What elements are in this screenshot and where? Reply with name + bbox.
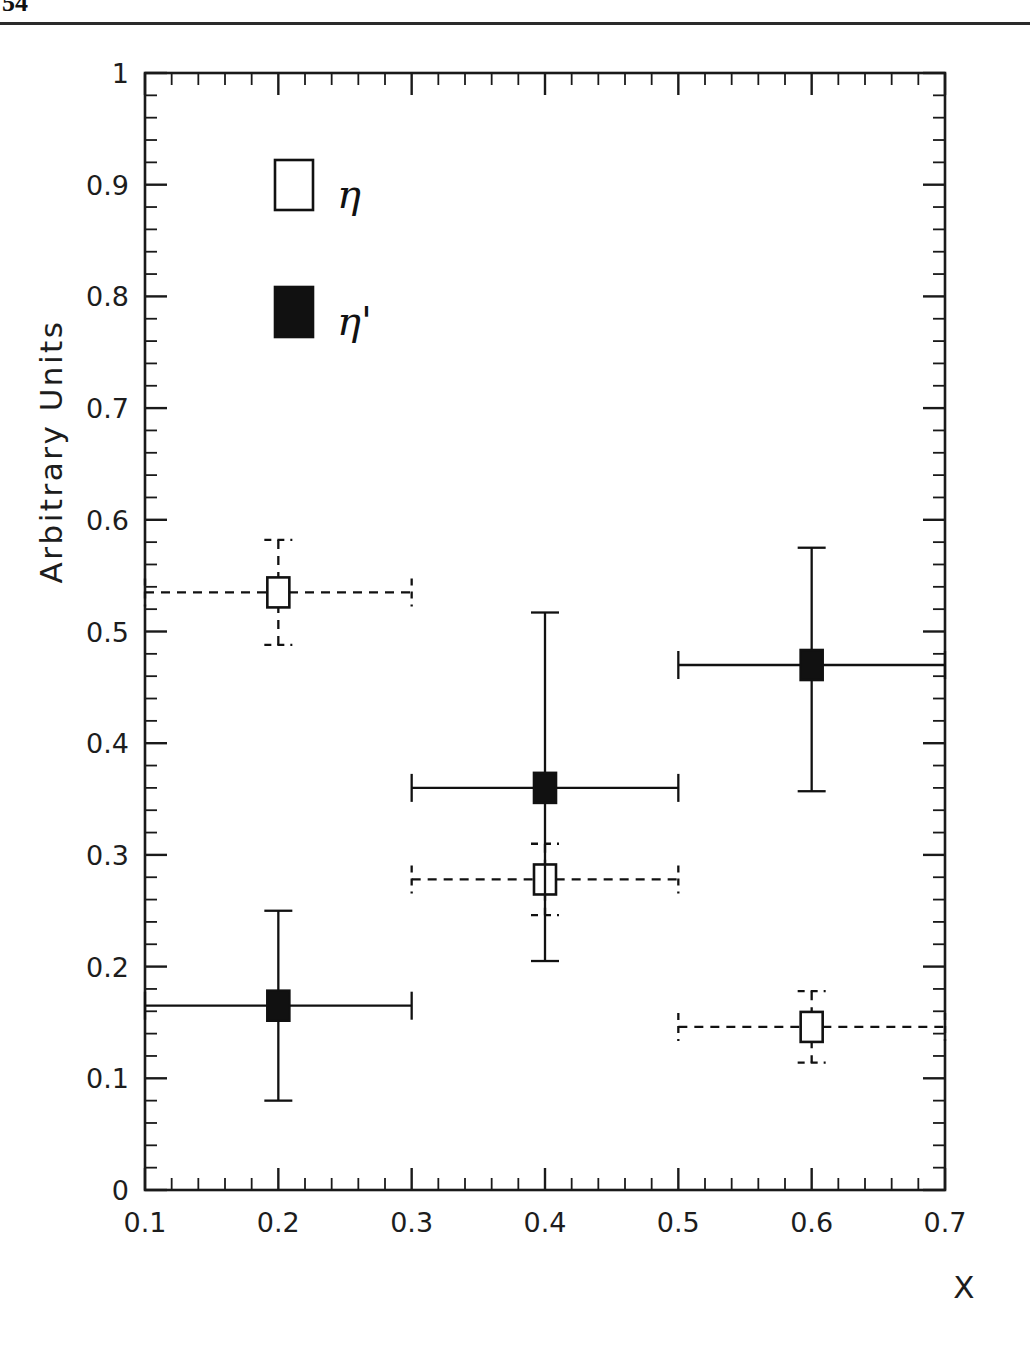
x-tick-label: 0.7 [924, 1207, 967, 1238]
y-tick-label: 0 [112, 1175, 129, 1206]
x-tick-label: 0.1 [124, 1207, 167, 1238]
marker-open-square [267, 577, 289, 607]
y-tick-label: 1 [112, 58, 129, 89]
y-tick-label: 0.2 [86, 952, 129, 983]
plot-legend: ηη' [275, 160, 372, 344]
legend-label: η' [337, 298, 372, 344]
data-point[interactable] [145, 911, 412, 1101]
y-tick-label: 0.9 [86, 170, 129, 201]
legend-marker-filled-square [275, 287, 313, 337]
x-tick-label: 0.6 [790, 1207, 833, 1238]
x-axis-title: X [953, 1269, 977, 1305]
y-axis-title: Arbitrary Units [33, 320, 69, 584]
legend-marker-open-square [275, 160, 313, 210]
legend-label: η [337, 171, 361, 217]
x-tick-label: 0.5 [657, 1207, 700, 1238]
legend-item-eta[interactable]: η [275, 160, 361, 217]
data-point[interactable] [412, 613, 679, 962]
x-tick-label: 0.2 [257, 1207, 300, 1238]
legend-item-eta-prime[interactable]: η' [275, 287, 372, 344]
data-point[interactable] [678, 548, 945, 792]
axis-titles: Arbitrary UnitsX [33, 320, 977, 1305]
y-axis-tick-labels: 00.10.20.30.40.50.60.70.80.91 [86, 58, 129, 1206]
y-tick-label: 0.3 [86, 840, 129, 871]
marker-filled-square [801, 650, 823, 680]
y-tick-label: 0.1 [86, 1063, 129, 1094]
y-tick-label: 0.5 [86, 617, 129, 648]
data-series-layer [145, 540, 945, 1101]
x-tick-label: 0.4 [524, 1207, 567, 1238]
marker-filled-square [534, 773, 556, 803]
y-tick-label: 0.6 [86, 505, 129, 536]
figure-scatter-plot: 0.10.20.30.40.50.60.7 00.10.20.30.40.50.… [0, 0, 1030, 1370]
data-point[interactable] [678, 991, 945, 1062]
marker-open-square [801, 1012, 823, 1042]
x-axis-tick-labels: 0.10.20.30.40.50.60.7 [124, 1207, 967, 1238]
y-tick-label: 0.7 [86, 393, 129, 424]
y-tick-label: 0.8 [86, 281, 129, 312]
plot-canvas: 0.10.20.30.40.50.60.7 00.10.20.30.40.50.… [0, 0, 1030, 1370]
x-tick-label: 0.3 [390, 1207, 433, 1238]
marker-filled-square [267, 991, 289, 1021]
data-point[interactable] [145, 540, 412, 645]
series-eta-prime [145, 548, 945, 1101]
y-tick-label: 0.4 [86, 728, 129, 759]
